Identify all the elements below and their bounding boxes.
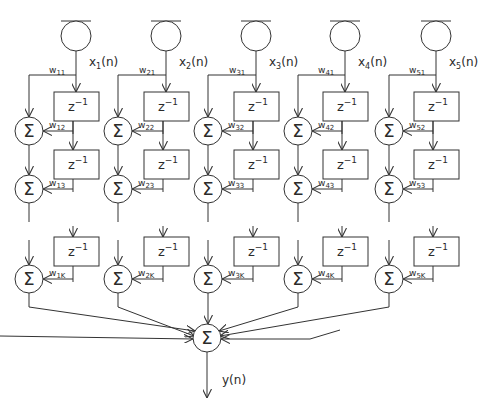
- sigma-symbol: Σ: [23, 120, 34, 141]
- sigma-symbol: Σ: [292, 120, 303, 141]
- filter-diagram: x1(n)w11z−1w12Σz−1w13Σz−1w1KΣx2(n)w21z−1…: [0, 0, 478, 414]
- input-label: x3(n): [269, 55, 298, 71]
- sum-input-line: [0, 336, 193, 339]
- weight-label: w3K: [228, 268, 245, 280]
- sum-input-line: [221, 330, 340, 339]
- weight-label: w22: [138, 120, 154, 132]
- sum-input-line: [219, 293, 298, 331]
- sigma-symbol: Σ: [202, 268, 213, 289]
- weight-label: w12: [49, 120, 65, 132]
- filter-column-3: x3(n)w31z−1w32Σz−1w33Σz−1w3KΣ: [194, 21, 298, 293]
- input-label: x2(n): [179, 55, 208, 71]
- sigma-symbol: Σ: [383, 268, 394, 289]
- output-section: Σy(n): [0, 293, 389, 398]
- weight-label: w2K: [138, 268, 155, 280]
- sigma-symbol: Σ: [202, 120, 213, 141]
- filter-column-1: x1(n)w11z−1w12Σz−1w13Σz−1w1KΣ: [15, 21, 118, 293]
- input-source-node: [61, 21, 91, 51]
- sigma-symbol: Σ: [383, 178, 394, 199]
- sigma-symbol: Σ: [383, 120, 394, 141]
- sum-input-line: [220, 293, 389, 336]
- weight-label: w4K: [318, 268, 335, 280]
- sigma-symbol: Σ: [201, 327, 212, 348]
- sigma-symbol: Σ: [292, 268, 303, 289]
- sigma-symbol: Σ: [112, 178, 123, 199]
- input-source-node: [330, 21, 360, 51]
- sum-input-line: [29, 293, 195, 331]
- weight-label: w52: [409, 120, 425, 132]
- sigma-symbol: Σ: [112, 268, 123, 289]
- weight-label: w53: [409, 178, 425, 190]
- weight-label: w43: [318, 178, 334, 190]
- weight-label: w5K: [409, 268, 426, 280]
- weight-label: w33: [228, 178, 244, 190]
- sigma-symbol: Σ: [23, 178, 34, 199]
- weight-label: w13: [49, 178, 65, 190]
- sigma-symbol: Σ: [202, 178, 213, 199]
- sigma-symbol: Σ: [23, 268, 34, 289]
- input-source-node: [151, 21, 181, 51]
- input-source-node: [421, 21, 451, 51]
- sigma-symbol: Σ: [112, 120, 123, 141]
- input-source-node: [241, 21, 271, 51]
- filter-column-5: x5(n)w51z−1w52Σz−1w53Σz−1w5KΣ: [375, 21, 478, 293]
- input-label: x5(n): [449, 55, 478, 71]
- weight-label: w23: [138, 178, 154, 190]
- weight-label: w42: [318, 120, 334, 132]
- input-label: x4(n): [358, 55, 387, 71]
- weight-label: w32: [228, 120, 244, 132]
- weight-label: w1K: [49, 268, 66, 280]
- filter-column-2: x2(n)w21z−1w22Σz−1w23Σz−1w2KΣ: [104, 21, 208, 293]
- input-label: x1(n): [89, 55, 118, 71]
- output-label: y(n): [222, 373, 246, 387]
- filter-column-4: x4(n)w41z−1w42Σz−1w43Σz−1w4KΣ: [284, 21, 387, 293]
- sigma-symbol: Σ: [292, 178, 303, 199]
